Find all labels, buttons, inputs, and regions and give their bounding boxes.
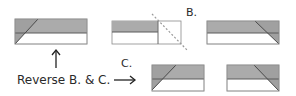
up-arrow-icon	[52, 50, 60, 68]
strip-right-diagonal	[207, 21, 279, 44]
right-arrow-icon	[114, 76, 135, 84]
strip-square-fold	[112, 14, 188, 51]
strip-left-diagonal	[15, 19, 87, 44]
short-right-diagonal	[227, 65, 279, 91]
instruction-label: Reverse B. & C.	[17, 73, 110, 87]
short-left-diagonal	[152, 65, 204, 91]
diagram-canvas: Reverse B. & C. C. B.	[0, 0, 296, 96]
label-b: B.	[186, 6, 197, 19]
label-c: C.	[121, 57, 132, 70]
